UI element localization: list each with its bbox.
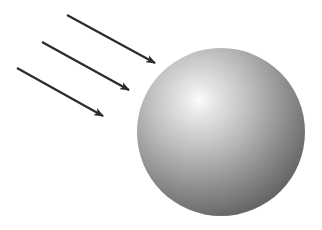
light-sphere-diagram bbox=[0, 0, 322, 230]
light-ray-arrow-3 bbox=[17, 68, 103, 116]
light-ray-arrow-1 bbox=[67, 15, 155, 63]
shaded-sphere bbox=[137, 48, 305, 216]
light-rays bbox=[17, 15, 155, 116]
light-ray-arrow-2 bbox=[42, 42, 129, 90]
